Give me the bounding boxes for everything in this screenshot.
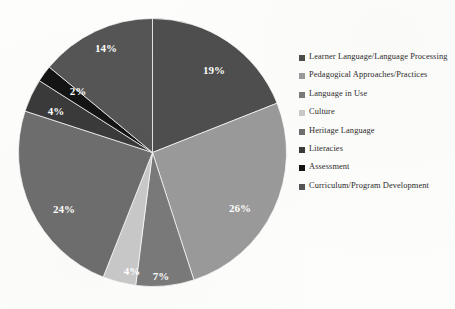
legend-item[interactable]: Pedagogical Approaches/Practices bbox=[299, 70, 451, 79]
legend-color-swatch-icon bbox=[299, 165, 305, 171]
pie-slices bbox=[19, 19, 287, 287]
pie-svg: 19%26%7%4%24%4%2%14% bbox=[18, 18, 287, 287]
legend-color-swatch-icon bbox=[299, 55, 305, 61]
legend-item-label: Learner Language/Language Processing bbox=[309, 52, 447, 61]
pie-slice-value-label: 26% bbox=[229, 202, 251, 214]
legend-item-label: Literacies bbox=[309, 144, 343, 153]
legend-color-swatch-icon bbox=[299, 110, 305, 116]
legend-item-label: Language in Use bbox=[309, 89, 367, 98]
pie-slice-value-label: 4% bbox=[48, 105, 65, 117]
legend-color-swatch-icon bbox=[299, 92, 305, 98]
legend-item[interactable]: Assessment bbox=[299, 162, 451, 171]
pie-slice-value-label: 2% bbox=[70, 85, 87, 97]
legend-item[interactable]: Heritage Language bbox=[299, 126, 451, 135]
legend-color-swatch-icon bbox=[299, 184, 305, 190]
pie-slice-value-label: 19% bbox=[203, 64, 225, 76]
legend-item-label: Heritage Language bbox=[309, 126, 375, 135]
legend-item[interactable]: Language in Use bbox=[299, 89, 451, 98]
legend-item[interactable]: Curriculum/Program Development bbox=[299, 181, 451, 190]
legend-item-label: Pedagogical Approaches/Practices bbox=[309, 70, 427, 79]
legend-color-swatch-icon bbox=[299, 147, 305, 153]
pie-slice-value-label: 7% bbox=[153, 270, 170, 282]
legend-item-label: Culture bbox=[309, 107, 335, 116]
legend-color-swatch-icon bbox=[299, 129, 305, 135]
pie-chart-figure: 19%26%7%4%24%4%2%14% Learner Language/La… bbox=[0, 0, 455, 309]
legend-color-swatch-icon bbox=[299, 73, 305, 79]
pie-slice-value-label: 4% bbox=[124, 265, 141, 277]
legend-item[interactable]: Culture bbox=[299, 107, 451, 116]
pie-slice-value-label: 24% bbox=[53, 203, 75, 215]
chart-legend: Learner Language/Language ProcessingPeda… bbox=[299, 52, 451, 199]
legend-item-label: Curriculum/Program Development bbox=[309, 181, 429, 190]
legend-item-label: Assessment bbox=[309, 162, 350, 171]
pie-slice-value-label: 14% bbox=[95, 42, 117, 54]
legend-item[interactable]: Literacies bbox=[299, 144, 451, 153]
legend-item[interactable]: Learner Language/Language Processing bbox=[299, 52, 451, 61]
pie-chart-plot-area: 19%26%7%4%24%4%2%14% bbox=[18, 18, 287, 287]
